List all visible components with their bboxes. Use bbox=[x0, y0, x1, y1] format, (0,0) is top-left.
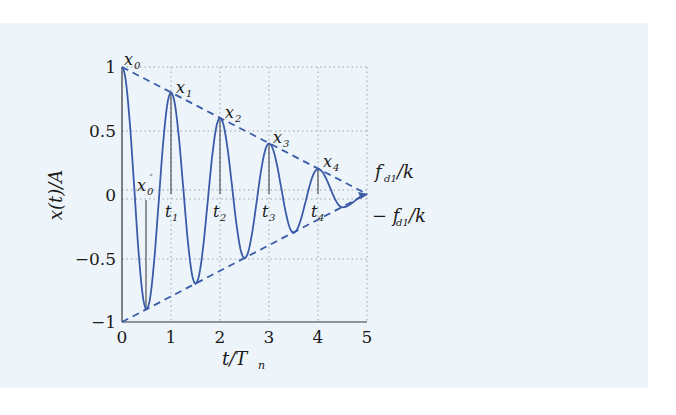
svg-text:1: 1 bbox=[186, 88, 192, 99]
x0-prime-label: x 0 ´ bbox=[137, 173, 154, 197]
svg-text:4: 4 bbox=[317, 212, 324, 223]
svg-text:x: x bbox=[273, 128, 282, 147]
svg-text:x: x bbox=[137, 176, 146, 195]
svg-text:2: 2 bbox=[234, 113, 241, 124]
y-tick-labels: 1 0.5 0 −0.5 −1 bbox=[75, 57, 116, 332]
peak-labels: x0 x1 x2 x3 x4 bbox=[124, 50, 339, 173]
svg-text:x: x bbox=[124, 50, 133, 69]
friction-band-label-positive: f d1 /k bbox=[373, 161, 414, 184]
response-curve bbox=[122, 67, 367, 309]
svg-text:d1: d1 bbox=[396, 217, 409, 228]
svg-text:´: ´ bbox=[147, 173, 153, 186]
svg-text:2: 2 bbox=[219, 212, 226, 223]
svg-text:t: t bbox=[165, 202, 172, 221]
svg-text:1: 1 bbox=[166, 327, 177, 347]
svg-text:x: x bbox=[323, 152, 332, 171]
svg-text:5: 5 bbox=[362, 327, 373, 347]
svg-text:1: 1 bbox=[172, 212, 178, 223]
svg-text:3: 3 bbox=[264, 327, 275, 347]
svg-text:4: 4 bbox=[332, 162, 339, 173]
svg-text:4: 4 bbox=[313, 327, 324, 347]
svg-text:0: 0 bbox=[105, 185, 116, 205]
svg-text:n: n bbox=[258, 359, 265, 372]
friction-damped-oscillation-chart: 1 0.5 0 −0.5 −1 0 1 2 3 4 5 x(t)/A t/T n… bbox=[0, 0, 676, 415]
svg-text:x: x bbox=[176, 78, 185, 97]
friction-band-label-negative: − f d1 /k bbox=[372, 205, 426, 228]
svg-text:0: 0 bbox=[134, 60, 141, 71]
peak-markers bbox=[146, 93, 318, 309]
svg-text:−1: −1 bbox=[91, 312, 116, 332]
svg-text:t: t bbox=[311, 202, 318, 221]
x-axis-label: t/T n bbox=[222, 348, 265, 372]
svg-text:0: 0 bbox=[147, 186, 154, 197]
svg-text:1: 1 bbox=[105, 57, 116, 77]
svg-text:x: x bbox=[225, 103, 234, 122]
svg-text:3: 3 bbox=[283, 138, 289, 149]
svg-text:0: 0 bbox=[117, 327, 128, 347]
y-axis-label: x(t)/A bbox=[45, 170, 66, 221]
svg-text:0.5: 0.5 bbox=[89, 121, 116, 141]
svg-text:2: 2 bbox=[215, 327, 226, 347]
svg-text:/k: /k bbox=[407, 205, 426, 226]
x-tick-labels: 0 1 2 3 4 5 bbox=[117, 327, 373, 347]
svg-text:t: t bbox=[213, 202, 220, 221]
svg-text:−0.5: −0.5 bbox=[75, 249, 116, 269]
svg-text:t/T: t/T bbox=[222, 348, 249, 369]
svg-text:/k: /k bbox=[395, 161, 414, 182]
svg-text:3: 3 bbox=[269, 212, 275, 223]
svg-text:t: t bbox=[262, 202, 269, 221]
svg-text:d1: d1 bbox=[384, 173, 397, 184]
